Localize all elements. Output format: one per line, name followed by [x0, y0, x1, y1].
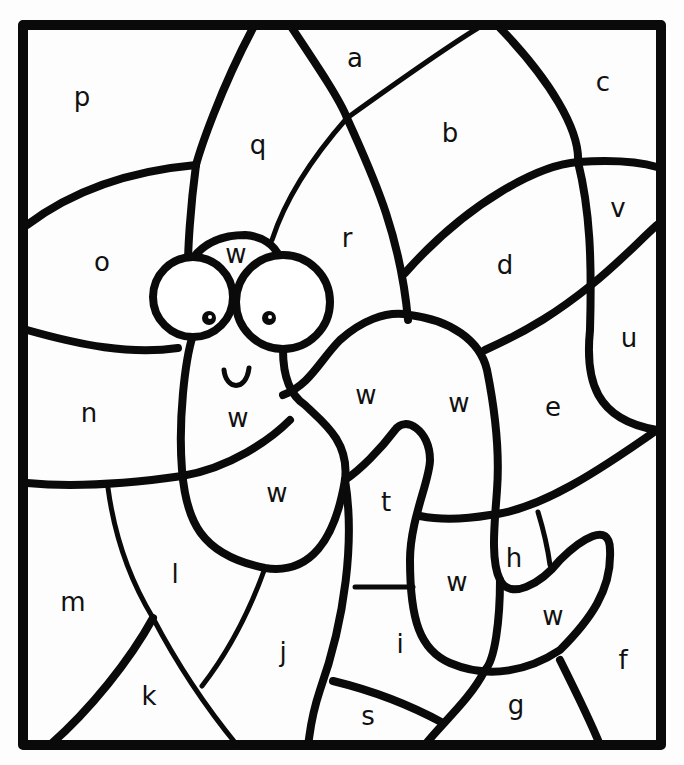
region-label-l[interactable]: l [171, 561, 178, 587]
region-label-w1[interactable]: w [225, 241, 246, 267]
region-label-c[interactable]: c [596, 69, 610, 95]
line-q-left [188, 28, 253, 265]
line-j-i [308, 480, 349, 745]
region-label-i[interactable]: i [396, 631, 403, 657]
region-label-b[interactable]: b [442, 120, 459, 146]
line-b-c-u [500, 28, 657, 430]
region-label-a[interactable]: a [347, 45, 363, 71]
region-label-j[interactable]: j [279, 639, 286, 665]
line-l-j [202, 568, 265, 686]
line-m-k [50, 618, 153, 745]
right-eye [236, 255, 330, 349]
region-label-k[interactable]: k [141, 683, 156, 709]
worm-mouth [224, 368, 249, 386]
region-label-o[interactable]: o [94, 249, 110, 275]
region-label-w3[interactable]: w [266, 480, 287, 506]
region-label-f[interactable]: f [618, 647, 627, 673]
coloring-page: abcdefghijklmnopqrstuvwwwwwww [0, 0, 684, 765]
line-a-b [347, 28, 478, 118]
region-label-p[interactable]: p [74, 84, 91, 110]
region-label-d[interactable]: d [497, 252, 514, 278]
region-label-m[interactable]: m [60, 589, 85, 615]
region-label-w7[interactable]: w [542, 603, 563, 629]
region-label-r[interactable]: r [342, 225, 353, 251]
region-label-w2[interactable]: w [227, 405, 248, 431]
region-label-w4[interactable]: w [355, 382, 376, 408]
region-label-h[interactable]: h [506, 545, 522, 571]
line-o-n [27, 330, 178, 350]
worm-head-neck [181, 335, 346, 569]
region-label-w5[interactable]: w [448, 390, 469, 416]
region-label-w6[interactable]: w [446, 569, 467, 595]
region-label-q[interactable]: q [250, 132, 267, 158]
worm-coloring-artwork [0, 0, 684, 765]
region-label-e[interactable]: e [545, 394, 561, 420]
left-eye [153, 257, 233, 337]
line-s-top [333, 681, 443, 723]
line-h-right [538, 512, 550, 565]
outer-frame [23, 25, 661, 745]
region-label-u[interactable]: u [621, 325, 637, 351]
region-label-t[interactable]: t [381, 489, 391, 515]
line-e-bottom [420, 430, 657, 519]
region-label-v[interactable]: v [610, 195, 625, 221]
line-p-o [27, 165, 196, 225]
line-q-r [272, 118, 347, 240]
region-label-n[interactable]: n [81, 400, 97, 426]
line-l-left [108, 488, 237, 745]
line-f-g [560, 660, 600, 745]
region-label-s[interactable]: s [361, 703, 375, 729]
region-label-g[interactable]: g [508, 692, 525, 718]
line-n-m [27, 420, 290, 485]
